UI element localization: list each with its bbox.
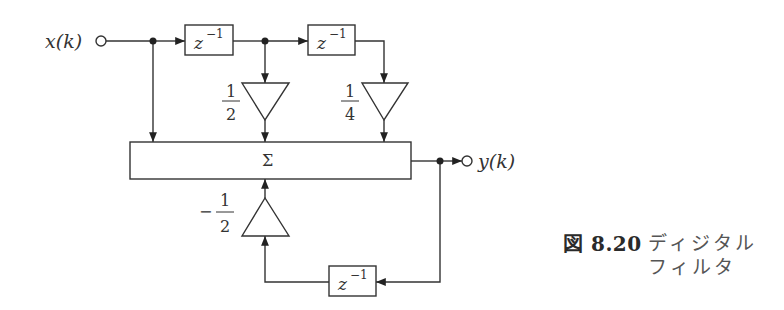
delay-2-label: z bbox=[316, 33, 327, 53]
junction-node bbox=[437, 158, 444, 165]
junction-node bbox=[262, 38, 269, 45]
input-terminal bbox=[96, 36, 106, 46]
delay-1-exponent: −1 bbox=[206, 27, 224, 41]
delay-1-label: z bbox=[193, 33, 204, 53]
gain-half-numerator: 1 bbox=[226, 82, 236, 101]
gain-neg-half-denominator: 2 bbox=[220, 217, 230, 236]
gain-neg-half-triangle bbox=[242, 198, 289, 236]
gain-quarter-denominator: 4 bbox=[345, 105, 355, 124]
output-terminal bbox=[462, 156, 472, 166]
figure-title-line2: フィルタ bbox=[648, 252, 736, 279]
figure-title-line1: ディジタル bbox=[648, 228, 757, 255]
gain-quarter-triangle bbox=[362, 83, 408, 120]
delay-feedback-label: z bbox=[337, 274, 348, 294]
input-label: x(k) bbox=[45, 30, 82, 52]
gain-neg-half-sign: − bbox=[199, 202, 212, 221]
gain-quarter-numerator: 1 bbox=[345, 82, 355, 101]
output-label: y(k) bbox=[477, 150, 515, 172]
delay-2-exponent: −1 bbox=[329, 27, 347, 41]
gain-half-denominator: 2 bbox=[226, 105, 236, 124]
gain-half-triangle bbox=[242, 83, 289, 120]
junction-node bbox=[150, 38, 157, 45]
figure-number: 図 8.20 bbox=[563, 228, 642, 257]
gain-neg-half-numerator: 1 bbox=[220, 191, 230, 210]
summer-label: Σ bbox=[262, 151, 273, 170]
delay-feedback-exponent: −1 bbox=[350, 268, 368, 282]
